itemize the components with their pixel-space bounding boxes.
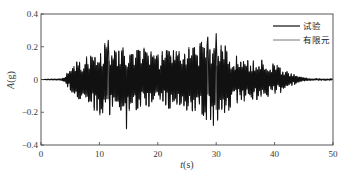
legend-label-fem: 有限元 <box>303 35 330 45</box>
y-tick-label: 0 <box>34 75 39 85</box>
legend: 试验 有限元 <box>273 21 330 45</box>
x-axis-label: t(s) <box>180 159 193 171</box>
acceleration-time-history-chart: 0.40.20−0.2−0.4 01020304050 A(g) t(s) 试验… <box>0 0 346 180</box>
y-tick-label: −0.4 <box>22 140 39 150</box>
y-tick-label: 0.4 <box>27 9 39 19</box>
y-tick-label: −0.2 <box>22 107 38 117</box>
x-tick-label: 50 <box>329 149 339 159</box>
legend-label-test: 试验 <box>303 21 321 31</box>
y-tick-label: 0.2 <box>27 42 38 52</box>
x-tick-label: 20 <box>153 149 163 159</box>
x-tick-label: 10 <box>95 149 105 159</box>
series-test-line <box>41 34 333 129</box>
x-tick-label: 30 <box>212 149 222 159</box>
x-tick-label: 0 <box>39 149 44 159</box>
series-layer <box>41 34 333 129</box>
y-axis-label: A(g) <box>5 71 17 90</box>
x-tick-label: 40 <box>270 149 280 159</box>
